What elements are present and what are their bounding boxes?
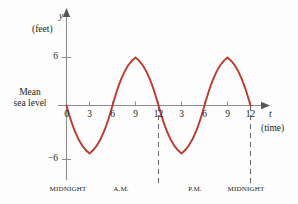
x-axis-variable-label: t bbox=[269, 110, 272, 120]
mean-sea-level-annotation: Mean sea level bbox=[2, 87, 58, 109]
y-tick-label-6: 6 bbox=[44, 52, 58, 62]
tide-graph-figure: y (feet) t (time) 6 −6 0 3 6 9 12 3 6 9 … bbox=[0, 0, 298, 204]
y-axis-variable-label: y bbox=[59, 12, 63, 22]
x-tick-label-noon: 12 bbox=[150, 110, 167, 120]
y-axis-unit-label: (feet) bbox=[32, 25, 53, 35]
x-tick-label-3am: 3 bbox=[83, 110, 96, 120]
caption-midnight-right: MIDNIGHT bbox=[216, 186, 276, 193]
y-axis-arrow-icon bbox=[63, 8, 70, 17]
mean-sea-level-line-1: Mean bbox=[2, 87, 58, 98]
x-tick-label-0: 0 bbox=[60, 110, 73, 120]
x-tick-label-midnight: 12 bbox=[242, 110, 259, 120]
y-tick-label-minus-6: −6 bbox=[38, 154, 58, 164]
mean-sea-level-line-2: sea level bbox=[2, 98, 58, 109]
x-tick-label-6pm: 6 bbox=[198, 110, 211, 120]
caption-midnight-left: MIDNIGHT bbox=[38, 186, 98, 193]
caption-pm: P.M. bbox=[179, 186, 211, 193]
y-axis bbox=[63, 8, 70, 180]
x-tick-label-6am: 6 bbox=[106, 110, 119, 120]
x-tick-label-9am: 9 bbox=[129, 110, 142, 120]
x-tick-label-9pm: 9 bbox=[221, 110, 234, 120]
caption-am: A.M. bbox=[105, 186, 137, 193]
x-axis-unit-label: (time) bbox=[261, 124, 284, 134]
x-tick-label-3pm: 3 bbox=[175, 110, 188, 120]
